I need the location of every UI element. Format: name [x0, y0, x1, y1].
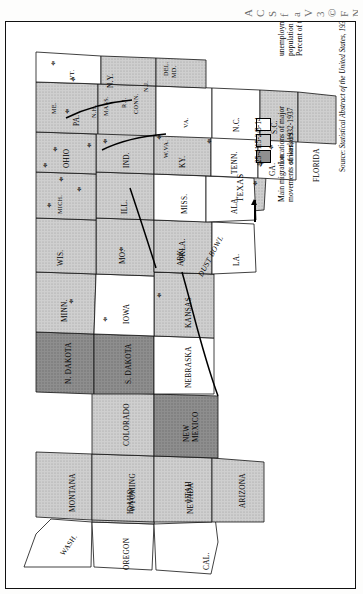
bleed-glyph: S	[266, 11, 278, 17]
bleed-glyph: a	[290, 12, 302, 17]
legend-title-line2: population receiving	[287, 21, 296, 56]
svg-text:⚘: ⚘	[64, 108, 70, 116]
svg-text:⚘: ⚘	[102, 316, 108, 324]
legend-title-line1: Percent of total	[296, 21, 305, 56]
svg-text:⚘: ⚘	[52, 146, 58, 154]
migration-arrow-icon	[254, 200, 256, 222]
bleed-glyph: f	[278, 13, 290, 17]
svg-text:⚘: ⚘	[58, 176, 64, 184]
bleed-glyph: 3	[314, 12, 326, 18]
svg-text:⚘: ⚘	[86, 142, 92, 150]
svg-text:⚘: ⚘	[50, 60, 56, 68]
svg-text:⚘: ⚘	[76, 186, 82, 194]
source-note: Source: Statistical Abstract of the Unit…	[339, 21, 347, 172]
legend-label-mid: 15-24	[254, 130, 263, 147]
legend-label-low: 8-14	[254, 117, 263, 131]
svg-text:⚘: ⚘	[118, 246, 124, 254]
svg-text:⚘: ⚘	[156, 134, 162, 142]
bleed-glyph: A	[242, 9, 254, 17]
bleed-glyph: V	[302, 9, 314, 17]
page-bleed-glyphs: ACSfaV3©FN	[238, 0, 358, 20]
svg-text:⚘: ⚘	[102, 138, 108, 146]
bleed-glyph: C	[254, 10, 266, 17]
source-prefix: Source:	[339, 150, 347, 172]
map-page: ACSfaV3©FN	[0, 0, 363, 594]
bleed-glyph: ©	[326, 9, 338, 17]
svg-text:⚘: ⚘	[42, 162, 48, 170]
svg-text:⚘: ⚘	[206, 138, 212, 146]
bleed-glyph: F	[338, 11, 350, 17]
legend-migration-line2: movements of workers	[287, 132, 296, 202]
svg-text:⚘: ⚘	[156, 292, 162, 300]
map-legend: Percent of total population receiving un…	[234, 56, 352, 196]
svg-text:⚘: ⚘	[70, 76, 76, 84]
svg-text:⚘: ⚘	[68, 298, 74, 306]
map-plate: ⚘ ⚘ ⚘ ⚘ ⚘ ⚘ ⚘ ⚘ ⚘ ⚘ ⚘ ⚘ ⚘ ⚘ ⚘ ⚘ ⚘ ⚘ WASH…	[5, 21, 356, 589]
svg-text:⚘: ⚘	[46, 202, 52, 210]
source-text: Statistical Abstract of the United State…	[339, 21, 347, 148]
bleed-glyph: N	[350, 9, 358, 17]
legend-title-line3: unemployment relief, 1934	[278, 21, 287, 56]
strike-symbol-icon: ⚘	[256, 160, 266, 168]
